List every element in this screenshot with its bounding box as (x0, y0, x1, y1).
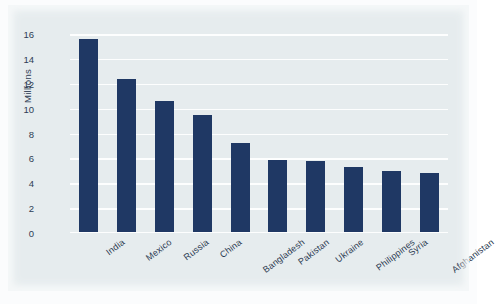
bar (155, 101, 174, 233)
y-axis-tick-label: 8 (0, 128, 34, 139)
y-axis-tick-label: 0 (0, 228, 34, 239)
y-axis-tick-label: 2 (0, 203, 34, 214)
gridline (70, 59, 448, 61)
x-axis-tick-label: India (104, 237, 126, 257)
gridline (70, 34, 448, 36)
bar (420, 173, 439, 233)
bar (231, 143, 250, 233)
x-axis-tick-label: China (218, 237, 244, 260)
bar (268, 160, 287, 233)
x-axis-tick-label: Mexico (144, 237, 174, 263)
y-axis-tick-label: 6 (0, 153, 34, 164)
chart-card: Millions 0246810121416 IndiaMexicoRussia… (8, 5, 469, 291)
x-axis-tick-label: Russia (181, 237, 210, 262)
y-axis-tick-label: 14 (0, 53, 34, 64)
bar (79, 39, 98, 233)
y-axis-tick-label: 4 (0, 178, 34, 189)
x-axis-line (70, 232, 448, 234)
y-axis-tick-label: 10 (0, 103, 34, 114)
bar (117, 79, 136, 233)
y-axis-tick-label: 16 (0, 29, 34, 40)
bar (193, 115, 212, 233)
bar (344, 167, 363, 233)
bar (382, 171, 401, 233)
x-axis-tick-label: Afghanistan (450, 237, 496, 275)
bar (306, 161, 325, 233)
y-axis-tick-label: 12 (0, 78, 34, 89)
plot-area (70, 34, 448, 233)
x-axis-tick-label: Ukraine (333, 237, 365, 264)
